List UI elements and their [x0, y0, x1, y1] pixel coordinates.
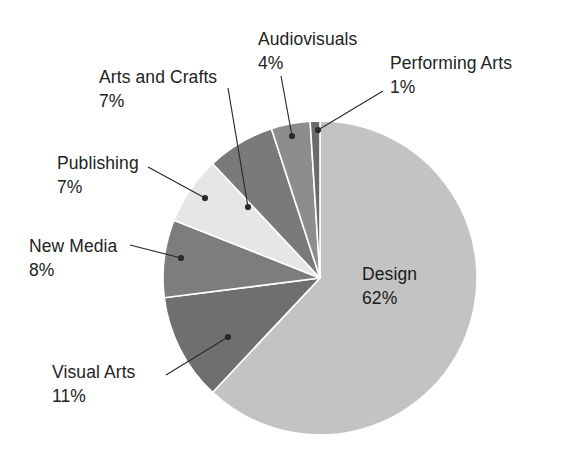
- pie-label-name-performing-arts: Performing Arts: [390, 51, 512, 75]
- leader-dot-audiovisuals: [289, 133, 295, 139]
- pie-label-arts-and-crafts: Arts and Crafts7%: [99, 65, 217, 113]
- pie-label-value-audiovisuals: 4%: [258, 51, 357, 75]
- leader-dot-new-media: [178, 255, 184, 261]
- leader-dot-publishing: [202, 195, 208, 201]
- pie-label-value-arts-and-crafts: 7%: [99, 89, 217, 113]
- pie-label-value-visual-arts: 11%: [52, 384, 135, 408]
- leader-dot-visual-arts: [225, 334, 231, 340]
- pie-label-name-design: Design: [362, 262, 417, 286]
- pie-chart-figure: Design62%Visual Arts11%New Media8%Publis…: [0, 0, 564, 457]
- pie-label-name-visual-arts: Visual Arts: [52, 360, 135, 384]
- pie-label-value-performing-arts: 1%: [390, 75, 512, 99]
- leader-dot-performing-arts: [315, 127, 321, 133]
- pie-slices-group: [163, 121, 477, 435]
- pie-label-design: Design62%: [362, 262, 417, 310]
- pie-label-value-new-media: 8%: [29, 258, 117, 282]
- pie-label-name-arts-and-crafts: Arts and Crafts: [99, 65, 217, 89]
- pie-label-performing-arts: Performing Arts1%: [390, 51, 512, 99]
- pie-label-name-publishing: Publishing: [57, 151, 139, 175]
- pie-label-name-new-media: New Media: [29, 234, 117, 258]
- leader-dot-arts-and-crafts: [245, 204, 251, 210]
- pie-label-name-audiovisuals: Audiovisuals: [258, 27, 357, 51]
- pie-label-value-design: 62%: [362, 286, 417, 310]
- pie-label-new-media: New Media8%: [29, 234, 117, 282]
- pie-label-visual-arts: Visual Arts11%: [52, 360, 135, 408]
- pie-label-publishing: Publishing7%: [57, 151, 139, 199]
- pie-label-value-publishing: 7%: [57, 175, 139, 199]
- pie-label-audiovisuals: Audiovisuals4%: [258, 27, 357, 75]
